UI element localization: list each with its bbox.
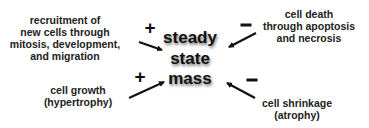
recruitment-line-2: new cells through	[10, 26, 120, 38]
cell-death-label: cell death through apoptosis and necrosi…	[263, 8, 355, 44]
cell-death-line-2: through apoptosis	[263, 20, 355, 32]
cell-death-line-3: and necrosis	[263, 32, 355, 44]
minus-sign-cell-death-icon	[241, 24, 252, 27]
cell-shrinkage-label: cell shrinkage (atrophy)	[262, 97, 332, 121]
recruitment-line-4: and migration	[10, 50, 120, 62]
plus-sign-recruitment-icon: +	[144, 18, 155, 37]
arrow-cell-death-icon	[229, 33, 256, 47]
center-line-2: state	[163, 49, 217, 70]
steady-state-mass-diagram: recruitment of new cells through mitosis…	[0, 0, 369, 128]
cell-death-line-1: cell death	[263, 8, 355, 20]
center-line-1: steady	[163, 28, 217, 49]
plus-sign-cell-growth-icon: +	[134, 67, 145, 86]
cell-growth-line-1: cell growth	[44, 84, 112, 96]
steady-state-mass-title: steady state mass	[163, 28, 217, 90]
recruitment-line-3: mitosis, development,	[10, 38, 120, 50]
arrow-cell-shrinkage-icon	[227, 83, 255, 98]
cell-growth-line-2: (hypertrophy)	[44, 96, 112, 108]
recruitment-label: recruitment of new cells through mitosis…	[10, 14, 120, 62]
cell-shrinkage-line-2: (atrophy)	[262, 109, 332, 121]
cell-shrinkage-line-1: cell shrinkage	[262, 97, 332, 109]
recruitment-line-1: recruitment of	[10, 14, 120, 26]
cell-growth-label: cell growth (hypertrophy)	[44, 84, 112, 108]
center-line-3: mass	[163, 69, 217, 90]
minus-sign-cell-shrinkage-icon	[247, 79, 258, 82]
arrow-recruitment-icon	[139, 42, 162, 50]
